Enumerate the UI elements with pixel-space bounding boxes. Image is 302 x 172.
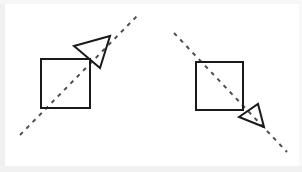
triangle-shape-left: [74, 36, 110, 68]
geometry-canvas: [0, 0, 302, 172]
dashed-axis-line-right: [174, 33, 287, 152]
square-shape-right: [196, 62, 243, 110]
dashed-axis-line-left: [20, 16, 137, 135]
figure-root: [0, 0, 302, 172]
left-panel: [20, 16, 137, 135]
right-panel: [174, 33, 287, 152]
square-shape-left: [41, 59, 90, 108]
